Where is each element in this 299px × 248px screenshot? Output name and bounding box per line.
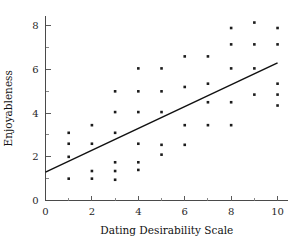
data-point (137, 67, 140, 70)
x-tick-label: 8 (228, 206, 234, 217)
data-point (276, 43, 279, 46)
data-point (253, 93, 256, 96)
data-point (114, 161, 117, 164)
x-axis-ticks (69, 196, 278, 201)
x-tick-label: 10 (271, 206, 284, 217)
data-point (207, 82, 210, 85)
data-point (207, 124, 210, 127)
data-point (91, 177, 94, 180)
axes-group (46, 16, 289, 201)
data-point (183, 144, 186, 147)
data-points-group (67, 21, 278, 181)
data-point (230, 67, 233, 70)
data-point (230, 101, 233, 104)
x-tick-label: 0 (42, 206, 48, 217)
data-point (137, 161, 140, 164)
data-point (253, 67, 256, 70)
y-tick-label: 8 (32, 20, 38, 31)
y-axis-title: Enjoyableness (2, 70, 14, 146)
data-point (114, 170, 117, 173)
x-tick-label: 4 (135, 206, 141, 217)
data-point (160, 90, 163, 93)
y-tick-label: 2 (32, 151, 38, 162)
data-point (276, 104, 279, 107)
data-point (114, 111, 117, 114)
data-point (230, 124, 233, 127)
x-axis-tick-labels: 0246810 (42, 206, 284, 217)
data-point (276, 82, 279, 85)
data-point (160, 111, 163, 114)
data-point (67, 132, 70, 135)
data-point (137, 111, 140, 114)
x-tick-label: 2 (89, 206, 95, 217)
data-point (91, 142, 94, 145)
data-point (160, 153, 163, 156)
data-point (183, 124, 186, 127)
y-axis-tick-labels: 02468 (32, 20, 38, 206)
x-axis-title: Dating Desirability Scale (100, 224, 233, 236)
x-tick-label: 6 (182, 206, 188, 217)
data-point (230, 43, 233, 46)
data-point (67, 177, 70, 180)
data-point (91, 170, 94, 173)
data-point (114, 178, 117, 181)
data-point (276, 93, 279, 96)
plot-canvas: 0246810 02468 Dating Desirability Scale … (0, 0, 299, 248)
data-point (137, 90, 140, 93)
data-point (160, 67, 163, 70)
data-point (253, 43, 256, 46)
data-point (183, 86, 186, 89)
data-point (160, 144, 163, 147)
data-point (230, 27, 233, 30)
y-tick-label: 4 (32, 108, 38, 119)
data-point (253, 21, 256, 24)
y-tick-label: 0 (32, 195, 38, 206)
data-point (183, 55, 186, 58)
data-point (137, 169, 140, 172)
y-axis-ticks (46, 26, 51, 179)
data-point (67, 156, 70, 159)
data-point (207, 101, 210, 104)
scatter-plot-figure: 0246810 02468 Dating Desirability Scale … (0, 0, 299, 248)
data-point (276, 27, 279, 30)
data-point (207, 55, 210, 58)
data-point (91, 124, 94, 127)
data-point (67, 142, 70, 145)
data-point (137, 142, 140, 145)
data-point (114, 90, 117, 93)
data-point (114, 132, 117, 135)
y-tick-label: 6 (32, 64, 38, 75)
